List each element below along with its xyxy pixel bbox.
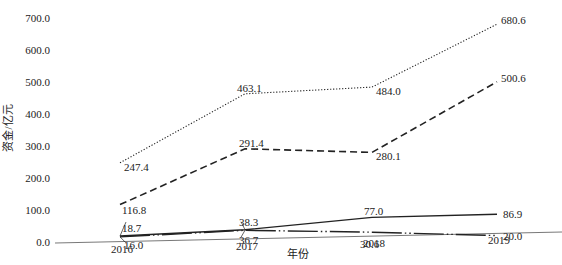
data-label: 463.1 bbox=[237, 82, 262, 94]
y-tick-label: 600.0 bbox=[25, 44, 50, 56]
series-dotted-line bbox=[120, 24, 497, 163]
data-label: 20.0 bbox=[503, 230, 523, 242]
data-label: 86.9 bbox=[503, 208, 523, 220]
y-axis-ticks: 0.0100.0200.0300.0400.0500.0600.0700.0 bbox=[25, 12, 50, 248]
data-label: 247.4 bbox=[124, 161, 149, 173]
data-label: 280.1 bbox=[376, 150, 401, 162]
y-axis-title: 资金/亿元 bbox=[1, 104, 14, 151]
data-label: 77.0 bbox=[364, 205, 384, 217]
data-label: 116.8 bbox=[122, 204, 147, 216]
data-label: 500.6 bbox=[501, 72, 526, 84]
data-label: 484.0 bbox=[376, 85, 401, 97]
data-label: 30.6 bbox=[360, 238, 380, 250]
y-tick-label: 0.0 bbox=[36, 236, 50, 248]
data-label: 680.6 bbox=[501, 14, 526, 26]
series-lines bbox=[120, 24, 497, 237]
y-tick-label: 100.0 bbox=[25, 204, 50, 216]
series-dash-dot-dot-line bbox=[120, 230, 497, 237]
y-tick-label: 400.0 bbox=[25, 108, 50, 120]
line-chart: 0.0100.0200.0300.0400.0500.0600.0700.0 2… bbox=[0, 0, 562, 265]
series-dashed-line bbox=[120, 82, 497, 205]
data-label: 38.3 bbox=[239, 216, 259, 228]
y-tick-label: 500.0 bbox=[25, 76, 50, 88]
series-solid-line bbox=[120, 214, 497, 236]
y-tick-label: 200.0 bbox=[25, 172, 50, 184]
y-tick-label: 300.0 bbox=[25, 140, 50, 152]
data-label: 291.4 bbox=[239, 137, 264, 149]
data-label: 16.0 bbox=[124, 239, 144, 251]
y-tick-label: 700.0 bbox=[25, 12, 50, 24]
x-axis-title: 年份 bbox=[287, 247, 309, 260]
